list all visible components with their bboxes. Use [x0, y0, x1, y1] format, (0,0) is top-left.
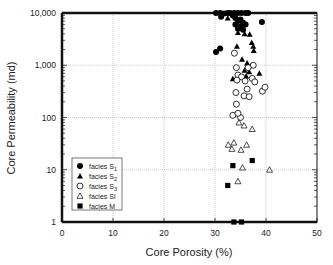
- data-point: [238, 147, 244, 152]
- data-point: [225, 142, 231, 147]
- data-point: [231, 219, 236, 224]
- x-tick-label: 10: [108, 228, 118, 238]
- data-point: [234, 77, 240, 83]
- data-point: [235, 110, 241, 116]
- y-axis-label: Core Permeability (md): [5, 61, 17, 174]
- data-point: [244, 86, 250, 92]
- data-point: [256, 70, 262, 75]
- y-tick-label: 100: [42, 113, 56, 123]
- x-tick-label: 20: [159, 228, 169, 238]
- data-point: [233, 65, 239, 71]
- data-point: [231, 140, 237, 145]
- data-point: [233, 101, 239, 107]
- scatter-chart: 01020304050 1101001,00010,000 Core Poros…: [0, 0, 333, 265]
- data-point: [249, 40, 255, 45]
- legend-label: facies Sl: [89, 193, 116, 200]
- data-point: [245, 65, 251, 71]
- legend-marker-icon: [77, 203, 82, 208]
- data-point: [249, 126, 255, 131]
- data-point: [246, 94, 252, 100]
- data-point: [240, 27, 246, 33]
- data-point: [218, 14, 224, 20]
- data-point: [230, 163, 235, 168]
- x-tick-label: 0: [60, 228, 65, 238]
- x-tick-labels: 01020304050: [60, 228, 322, 238]
- y-tick-label: 1: [51, 217, 56, 227]
- legend-label: facies M: [89, 203, 115, 210]
- data-point: [225, 183, 230, 188]
- y-tick-labels: 1101001,00010,000: [30, 8, 56, 227]
- data-point: [245, 10, 251, 16]
- data-point: [244, 142, 250, 147]
- legend: facies S1facies S2facies S3facies Slfaci…: [72, 158, 122, 210]
- x-tick-label: 30: [210, 228, 220, 238]
- data-point: [240, 165, 246, 170]
- data-point: [217, 45, 223, 51]
- x-tick-label: 40: [261, 228, 271, 238]
- x-axis-label: Core Porosity (%): [146, 246, 233, 258]
- series-facies-m: [225, 158, 255, 225]
- data-point: [242, 78, 248, 84]
- legend-marker-icon: [77, 163, 83, 169]
- series-facies-s3: [230, 50, 268, 120]
- data-point: [250, 158, 255, 163]
- series-facies-sl: [225, 120, 272, 184]
- data-point: [252, 79, 258, 85]
- data-point: [233, 90, 239, 96]
- data-point: [259, 19, 265, 25]
- y-tick-label: 1,000: [35, 60, 57, 70]
- data-points: [213, 10, 273, 225]
- data-point: [267, 167, 273, 172]
- legend-marker-icon: [77, 183, 83, 189]
- data-point: [239, 56, 245, 61]
- y-tick-label: 10: [47, 165, 57, 175]
- data-point: [247, 31, 253, 36]
- y-tick-label: 10,000: [30, 8, 56, 18]
- data-point: [234, 43, 240, 48]
- data-point: [231, 50, 237, 56]
- data-point: [262, 84, 268, 90]
- data-point: [239, 219, 244, 224]
- data-point: [235, 178, 241, 183]
- x-tick-label: 50: [312, 228, 322, 238]
